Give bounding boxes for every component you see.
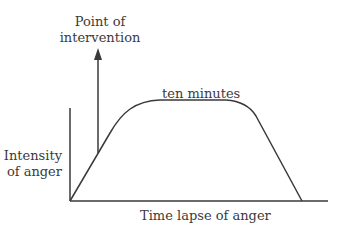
y-axis-label-line2: of anger (2, 164, 62, 180)
y-axis-label-line1: Intensity (2, 148, 62, 164)
anger-curve (70, 100, 302, 201)
plateau-label: ten minutes (162, 86, 240, 102)
intervention-label-line2: intervention (58, 30, 142, 46)
y-axis-label: Intensity of anger (2, 148, 62, 180)
x-axis-label: Time lapse of anger (140, 208, 271, 224)
intervention-label: Point of intervention (68, 14, 132, 46)
intervention-arrowhead-icon (94, 48, 102, 60)
intervention-label-line1: Point of (68, 14, 132, 30)
anger-curve-diagram (0, 0, 348, 230)
